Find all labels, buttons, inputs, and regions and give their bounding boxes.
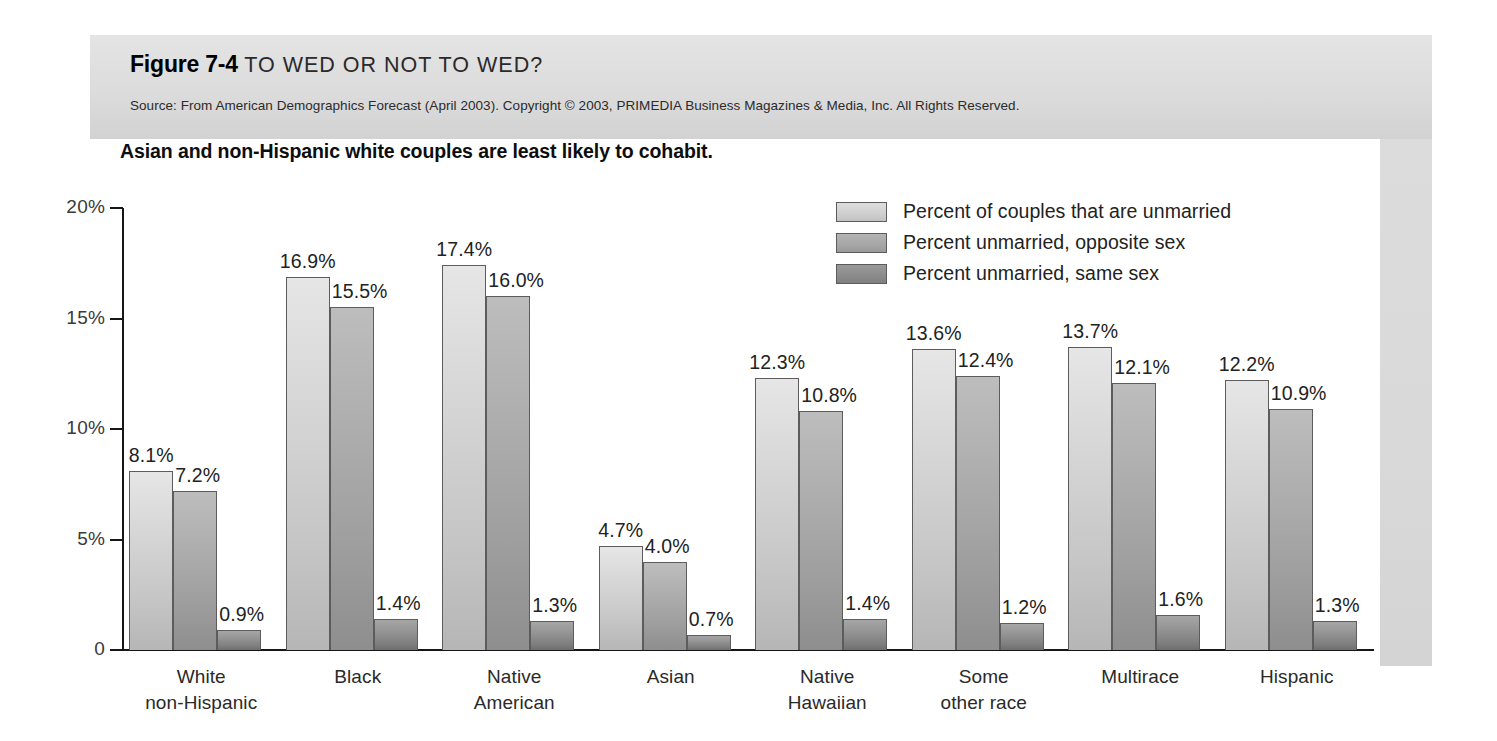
bar-value-label: 0.7% xyxy=(689,608,781,631)
bar xyxy=(1156,615,1200,650)
legend-item[interactable]: Percent of couples that are unmarried xyxy=(836,199,1231,224)
bar xyxy=(530,621,574,650)
y-axis-tick-label: 10% xyxy=(30,417,105,439)
bar-value-label: 17.4% xyxy=(424,238,504,261)
bar-value-label: 12.3% xyxy=(737,351,817,374)
x-axis-category-label-line: Hispanic xyxy=(1199,664,1396,690)
bar-value-label: 12.1% xyxy=(1114,356,1206,379)
y-axis-tick xyxy=(110,207,123,209)
bar-value-label: 1.2% xyxy=(1002,596,1094,619)
bar-value-label: 15.5% xyxy=(332,280,424,303)
bar-value-label: 10.9% xyxy=(1271,382,1363,405)
bar xyxy=(374,619,418,650)
legend-item[interactable]: Percent unmarried, same sex xyxy=(836,261,1231,286)
figure-page: Figure 7-4 TO WED OR NOT TO WED? Source:… xyxy=(0,0,1497,741)
bar xyxy=(643,562,687,650)
bar-value-label: 10.8% xyxy=(801,384,893,407)
legend-swatch xyxy=(836,233,887,253)
bar xyxy=(1000,623,1044,650)
y-axis-tick-label-text: 5% xyxy=(77,528,105,550)
bar xyxy=(799,411,843,650)
bar xyxy=(1269,409,1313,650)
y-axis-tick xyxy=(110,649,123,651)
bar xyxy=(1313,621,1357,650)
x-axis-category-label: Hispanic xyxy=(1199,664,1396,690)
bar xyxy=(217,630,261,650)
bar-value-label: 4.0% xyxy=(645,535,737,558)
chart-plot-area: 05%10%15%20% Whitenon-HispanicBlackNativ… xyxy=(0,0,1497,741)
bar-value-label: 1.4% xyxy=(376,592,468,615)
bar xyxy=(129,471,173,650)
bar-value-label: 13.6% xyxy=(894,322,974,345)
y-axis-tick-label: 0 xyxy=(30,638,105,660)
legend-item[interactable]: Percent unmarried, opposite sex xyxy=(836,230,1231,255)
legend-swatch xyxy=(836,202,887,222)
bar-value-label: 1.4% xyxy=(845,592,937,615)
x-axis-category-label-line: non-Hispanic xyxy=(103,690,300,716)
bar-value-label: 7.2% xyxy=(175,464,267,487)
y-axis-tick-label: 5% xyxy=(30,528,105,550)
legend-swatch xyxy=(836,264,887,284)
bar xyxy=(330,307,374,650)
x-axis-category-label-line: American xyxy=(416,690,613,716)
bar xyxy=(173,491,217,650)
bar-value-label: 1.3% xyxy=(532,594,624,617)
chart-legend: Percent of couples that are unmarriedPer… xyxy=(836,199,1231,292)
bar xyxy=(687,635,731,650)
bar-value-label: 1.6% xyxy=(1158,588,1250,611)
bar xyxy=(486,296,530,650)
x-axis-category-label-line: other race xyxy=(886,690,1083,716)
bar xyxy=(843,619,887,650)
legend-label: Percent of couples that are unmarried xyxy=(903,200,1231,223)
legend-label: Percent unmarried, same sex xyxy=(903,262,1159,285)
y-axis-tick xyxy=(110,539,123,541)
y-axis-tick xyxy=(110,318,123,320)
y-axis-tick-label-text: 15% xyxy=(66,307,105,329)
bar-value-label: 1.3% xyxy=(1315,594,1407,617)
y-axis-tick-label-text: 20% xyxy=(66,196,105,218)
y-axis-tick-label: 20% xyxy=(30,196,105,218)
bar xyxy=(1112,383,1156,650)
legend-label: Percent unmarried, opposite sex xyxy=(903,231,1185,254)
y-axis-tick xyxy=(110,428,123,430)
y-axis-tick-label: 15% xyxy=(30,307,105,329)
bar xyxy=(286,277,330,650)
bar-value-label: 0.9% xyxy=(219,603,311,626)
bar-value-label: 16.0% xyxy=(488,269,580,292)
bar-value-label: 16.9% xyxy=(268,250,348,273)
bar-value-label: 13.7% xyxy=(1050,320,1130,343)
y-axis-tick-label-text: 10% xyxy=(66,417,105,439)
y-axis-tick-label-text: 0 xyxy=(94,638,105,660)
bar-value-label: 12.2% xyxy=(1207,353,1287,376)
bar-value-label: 12.4% xyxy=(958,349,1050,372)
bar xyxy=(956,376,1000,650)
